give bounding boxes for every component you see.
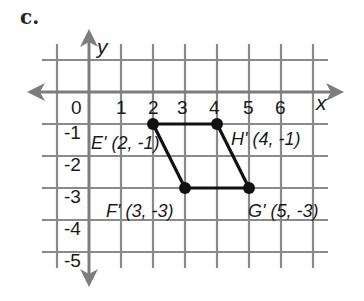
point-g-prime xyxy=(243,182,255,194)
x-tick: 0 xyxy=(71,97,82,118)
label-g-prime: G' (5, -3) xyxy=(248,201,318,221)
coordinate-plane: y x 0 1 2 3 4 5 6 -1 -2 -3 -4 -5 E' (2, … xyxy=(0,0,364,301)
point-e-prime xyxy=(147,118,159,130)
x-axis-label: x xyxy=(315,91,328,114)
y-tick: -4 xyxy=(64,218,81,239)
y-axis xyxy=(80,29,98,287)
label-h-prime: H' (4, -1) xyxy=(231,129,300,149)
y-tick: -2 xyxy=(64,154,81,175)
x-tick: 1 xyxy=(116,97,127,118)
label-e-prime: E' (2, -1) xyxy=(91,133,159,153)
label-f-prime: F' (3, -3) xyxy=(106,201,173,221)
grid xyxy=(42,44,328,268)
y-tick-labels: -1 -2 -3 -4 -5 xyxy=(64,122,81,271)
x-tick: 4 xyxy=(209,97,220,118)
y-tick: -5 xyxy=(64,250,81,271)
x-tick: 2 xyxy=(148,97,159,118)
y-tick: -3 xyxy=(64,186,81,207)
x-tick: 5 xyxy=(243,97,254,118)
x-tick-labels: 0 1 2 3 4 5 6 xyxy=(71,97,286,118)
point-f-prime xyxy=(179,182,191,194)
y-axis-label: y xyxy=(95,35,109,58)
y-tick: -1 xyxy=(64,122,81,143)
x-tick: 3 xyxy=(177,97,188,118)
x-tick: 6 xyxy=(275,97,286,118)
point-h-prime xyxy=(211,118,223,130)
